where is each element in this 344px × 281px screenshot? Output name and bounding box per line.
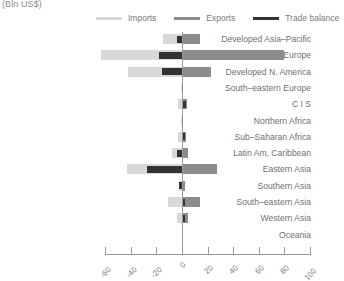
- category-label: Sub–Saharan Africa: [139, 132, 317, 142]
- bar-imports: [168, 197, 182, 207]
- x-axis-tick: [233, 247, 234, 255]
- chart-row: Western Asia: [0, 211, 317, 227]
- bar-exports: [182, 34, 200, 44]
- legend-label: Trade balance: [285, 13, 339, 23]
- x-axis-tick-label: 20: [202, 263, 215, 276]
- legend-swatch-icon: [253, 17, 279, 20]
- x-axis-tick-label: 40: [227, 263, 240, 276]
- chart-row: C I S: [0, 97, 317, 113]
- x-axis-tick-label: -40: [124, 265, 139, 280]
- category-label: C I S: [139, 99, 317, 109]
- x-axis-tick-label: 60: [253, 263, 266, 276]
- chart-unit-title: (Bln US$): [2, 0, 42, 9]
- category-label: South–eastern Asia: [139, 197, 317, 207]
- chart-row: Oceania: [0, 228, 317, 244]
- chart-row: Southern Asia: [0, 179, 317, 195]
- chart-row: Northern Africa: [0, 114, 317, 130]
- x-axis-tick: [156, 247, 157, 255]
- x-axis-tick: [105, 247, 106, 255]
- legend-item-trade-balance: Trade balance: [253, 13, 339, 23]
- zero-axis-line: [182, 32, 183, 247]
- category-label: Oceania: [139, 230, 317, 240]
- category-label: Northern Africa: [139, 116, 317, 126]
- x-axis-tick-label: -60: [98, 265, 113, 280]
- x-axis-tick: [310, 247, 311, 255]
- x-axis-tick: [208, 247, 209, 255]
- category-label: South–eastern Europe: [139, 83, 317, 93]
- x-axis-tick-label: 0: [178, 260, 188, 270]
- bar-trade-balance: [147, 166, 182, 173]
- legend-item-exports: Exports: [174, 13, 235, 23]
- legend-swatch-icon: [96, 17, 122, 20]
- bar-exports: [182, 67, 211, 77]
- chart-row: Latin Am, Caribbean: [0, 146, 317, 162]
- chart-row: Developed N. America: [0, 65, 317, 81]
- x-axis-tick: [259, 247, 260, 255]
- bar-trade-balance: [162, 68, 182, 75]
- x-axis-tick: [182, 247, 183, 255]
- chart-row: Sub–Saharan Africa: [0, 130, 317, 146]
- legend-label: Imports: [128, 13, 156, 23]
- x-axis-tick-label: -20: [150, 265, 165, 280]
- category-label: Southern Asia: [139, 181, 317, 191]
- x-axis-tick-label: 100: [302, 266, 318, 281]
- bar-exports: [182, 164, 217, 174]
- chart-row: South–eastern Europe: [0, 81, 317, 97]
- x-axis: -60-40-20020406080100: [0, 247, 317, 281]
- bar-exports: [182, 197, 200, 207]
- chart-row: Developed Asia–Pacific: [0, 32, 317, 48]
- chart-plot-area: Developed Asia–PacificDeveloped EuropeDe…: [0, 32, 317, 247]
- bar-trade-balance: [159, 52, 182, 59]
- chart-row: South–eastern Asia: [0, 195, 317, 211]
- legend-swatch-icon: [174, 17, 200, 20]
- x-axis-tick: [131, 247, 132, 255]
- legend-item-imports: Imports: [96, 13, 156, 23]
- bar-exports: [182, 50, 284, 60]
- chart-legend: ImportsExportsTrade balance: [96, 12, 344, 24]
- category-label: Western Asia: [139, 213, 317, 223]
- legend-label: Exports: [206, 13, 235, 23]
- category-label: Latin Am, Caribbean: [139, 148, 317, 158]
- chart-row: Eastern Asia: [0, 162, 317, 178]
- x-axis-tick: [284, 247, 285, 255]
- x-axis-tick-label: 80: [279, 263, 292, 276]
- chart-row: Developed Europe: [0, 48, 317, 64]
